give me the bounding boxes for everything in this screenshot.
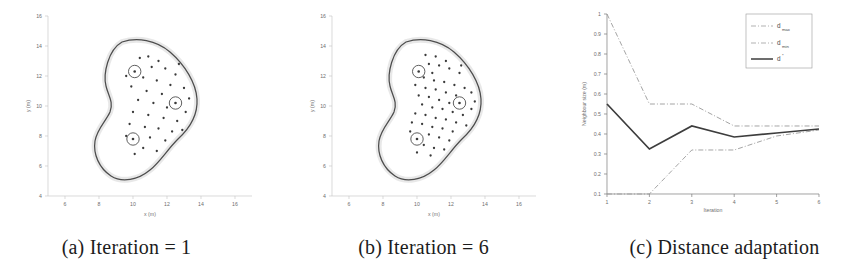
anchor-node-center xyxy=(132,138,135,141)
panel-a-plot: 4 6 8 10 12 14 16 6 8 10 12 xyxy=(0,0,284,226)
legend-label-dmax-sub: max xyxy=(782,27,791,32)
x-tick-label: 3 xyxy=(691,199,694,205)
node-point xyxy=(429,154,431,156)
panel-c-y-ticks: 0.10.20.30.40.50.60.70.80.91 xyxy=(594,11,607,197)
node-point xyxy=(137,99,139,101)
panel-b-x-ticks xyxy=(349,196,519,199)
y-tick-label: 0.2 xyxy=(594,171,601,177)
node-point xyxy=(415,151,417,153)
svg-text:8: 8 xyxy=(381,201,384,207)
node-point xyxy=(169,84,171,86)
x-tick-label: 6 xyxy=(818,199,821,205)
svg-text:6: 6 xyxy=(39,163,42,169)
node-point xyxy=(432,147,434,149)
panel-b-ylabel: y (m) xyxy=(309,100,315,112)
node-point xyxy=(183,87,185,89)
node-point xyxy=(152,102,154,104)
node-point xyxy=(151,66,153,68)
node-point xyxy=(458,72,460,74)
node-point xyxy=(145,90,147,92)
x-tick-label: 5 xyxy=(775,199,778,205)
node-point xyxy=(441,127,443,129)
node-point xyxy=(142,147,144,149)
svg-text:14: 14 xyxy=(36,43,42,49)
node-point xyxy=(434,88,436,90)
node-point xyxy=(431,126,433,128)
node-point xyxy=(128,123,130,125)
y-tick-label: 0.5 xyxy=(594,111,601,117)
panel-b-y-tick-labels: 4 6 8 10 12 14 16 xyxy=(320,13,326,199)
node-point xyxy=(161,93,163,95)
panel-a-iteration-1: 4 6 8 10 12 14 16 6 8 10 12 xyxy=(0,0,284,226)
node-point xyxy=(427,133,429,135)
panel-c-legend: d max d min d * xyxy=(746,14,812,68)
node-point xyxy=(162,117,164,119)
legend-label-dmax-base: d xyxy=(777,22,781,29)
node-point xyxy=(410,121,412,123)
svg-text:14: 14 xyxy=(198,201,204,207)
node-point xyxy=(427,63,429,65)
node-point xyxy=(157,127,159,129)
node-point xyxy=(157,60,159,62)
panel-a-blob-halo xyxy=(95,40,197,180)
node-point xyxy=(448,102,450,104)
node-point xyxy=(443,148,445,150)
node-point xyxy=(434,55,436,57)
panel-a-y-tick-labels: 4 6 8 10 12 14 16 xyxy=(36,13,42,199)
svg-text:4: 4 xyxy=(323,193,326,199)
node-point xyxy=(470,91,472,93)
node-point xyxy=(417,94,419,96)
panel-a-xlabel: x (m) xyxy=(144,211,156,217)
panel-b-plot: 4 6 8 10 12 14 16 6 8 10 12 xyxy=(284,0,568,226)
series-line-d_star xyxy=(607,104,819,149)
anchor-node-center xyxy=(417,70,420,73)
caption-a: (a) Iteration = 1 xyxy=(0,228,297,269)
node-point xyxy=(422,76,424,78)
node-point xyxy=(185,111,187,113)
node-point xyxy=(414,84,416,86)
anchor-node-center xyxy=(174,102,177,105)
node-point xyxy=(414,112,416,114)
panel-a-x-ticks xyxy=(65,196,235,199)
node-point xyxy=(431,106,433,108)
node-point xyxy=(470,108,472,110)
node-point xyxy=(147,55,149,57)
svg-text:10: 10 xyxy=(36,103,42,109)
node-point xyxy=(463,87,465,89)
panel-a-y-ticks xyxy=(45,16,48,196)
node-point xyxy=(421,103,423,105)
svg-text:6: 6 xyxy=(347,201,350,207)
svg-text:8: 8 xyxy=(39,133,42,139)
node-point xyxy=(424,87,426,89)
node-point xyxy=(164,67,166,69)
node-point xyxy=(451,111,453,113)
node-point xyxy=(444,60,446,62)
node-point xyxy=(460,64,462,66)
node-point xyxy=(149,136,151,138)
y-tick-label: 1 xyxy=(598,11,601,17)
node-point xyxy=(132,111,134,113)
svg-text:6: 6 xyxy=(323,163,326,169)
node-point xyxy=(188,97,190,99)
panel-b-blob-halo xyxy=(378,40,480,180)
svg-text:14: 14 xyxy=(482,201,488,207)
node-point xyxy=(139,57,141,59)
svg-text:4: 4 xyxy=(39,193,42,199)
node-point xyxy=(473,100,475,102)
svg-text:6: 6 xyxy=(64,201,67,207)
node-point xyxy=(438,99,440,101)
svg-text:16: 16 xyxy=(232,201,238,207)
y-tick-label: 0.6 xyxy=(594,91,601,97)
node-point xyxy=(438,64,440,66)
node-point xyxy=(409,130,411,132)
panel-a-x-tick-labels: 6 8 10 12 14 16 xyxy=(64,201,238,207)
node-point xyxy=(453,84,455,86)
y-tick-label: 0.8 xyxy=(594,51,601,57)
svg-text:10: 10 xyxy=(320,103,326,109)
node-point xyxy=(166,106,168,108)
node-point xyxy=(444,91,446,93)
x-tick-label: 2 xyxy=(648,199,651,205)
y-tick-label: 0.4 xyxy=(594,131,601,137)
node-point xyxy=(432,79,434,81)
node-point xyxy=(455,121,457,123)
